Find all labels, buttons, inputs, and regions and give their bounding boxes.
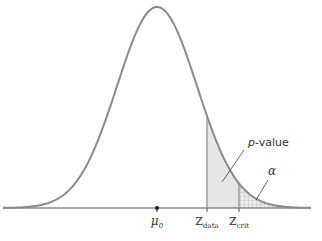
z-crit-label: Zcrit xyxy=(229,215,249,230)
normal-curve xyxy=(3,7,311,208)
alpha-label: α xyxy=(268,164,276,178)
z-data-label: Zdata xyxy=(195,215,218,230)
alpha-region xyxy=(239,183,311,208)
alpha-pointer-line xyxy=(256,180,268,200)
mu-zero-label: μ0 xyxy=(151,214,164,230)
normal-distribution-diagram: μ0 Zdata Zcrit p-value α xyxy=(0,0,322,241)
p-value-label: p-value xyxy=(247,136,289,149)
